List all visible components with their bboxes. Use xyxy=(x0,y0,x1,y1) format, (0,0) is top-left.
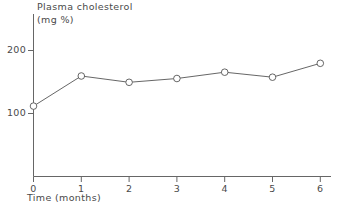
x-tick-label-3: 3 xyxy=(167,183,187,194)
data-point-marker xyxy=(126,79,133,86)
x-tick-label-2: 2 xyxy=(119,183,139,194)
x-tick-label-6: 6 xyxy=(310,183,330,194)
x-tick-label-4: 4 xyxy=(215,183,235,194)
y-tick-label-200: 200 xyxy=(0,44,26,55)
data-point-marker xyxy=(269,74,276,81)
data-point-marker xyxy=(30,103,37,110)
data-point-marker xyxy=(221,69,228,76)
x-axis-title: Time (months) xyxy=(27,192,101,203)
y-axis-title: Plasma cholesterol (mg %) xyxy=(37,1,133,26)
y-axis-title-line-1: Plasma cholesterol xyxy=(37,1,133,14)
data-point-marker xyxy=(174,75,181,82)
chart-figure: Plasma cholesterol (mg %) 200 100 0 1 2 … xyxy=(0,0,337,211)
data-series-line xyxy=(34,63,321,106)
plot-canvas xyxy=(0,0,337,211)
data-point-marker xyxy=(317,60,324,67)
data-point-marker xyxy=(78,73,85,80)
y-axis-title-line-2: (mg %) xyxy=(37,14,133,27)
x-tick-label-5: 5 xyxy=(263,183,283,194)
y-tick-label-100: 100 xyxy=(0,107,26,118)
